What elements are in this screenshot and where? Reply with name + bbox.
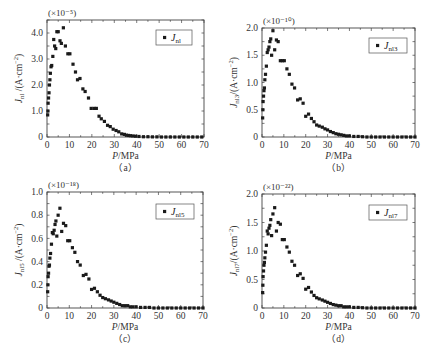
data-point [166, 306, 169, 309]
data-point [58, 207, 61, 210]
y-tick-label: 3.0 [31, 54, 43, 64]
data-point [152, 306, 155, 309]
data-point [261, 108, 264, 111]
chart-panel-c: 01020304050607000.20.40.60.81.0(×10⁻¹⁸)P… [12, 180, 208, 344]
y-tick-label: 1.5 [246, 50, 258, 60]
y-axis-title: Jnl3/(A·cm−2) [227, 57, 241, 108]
data-point [71, 246, 74, 249]
y-tick-label: 1.0 [31, 187, 43, 197]
y-scale-multiplier: (×10⁻⁵) [48, 8, 76, 18]
data-point [104, 297, 107, 300]
chart-panel-b: 01020304050607000.51.01.52.0(×10⁻¹⁰)P/MP… [227, 16, 420, 173]
data-point [112, 301, 115, 304]
data-series-c [46, 207, 205, 310]
data-point [157, 306, 160, 309]
legend: Jnl [156, 30, 192, 45]
data-point [135, 305, 138, 308]
data-point [146, 135, 149, 138]
data-point [357, 135, 360, 138]
data-point [46, 113, 49, 116]
data-point [400, 306, 403, 309]
data-point [310, 117, 313, 120]
data-point [50, 64, 53, 67]
data-point [137, 135, 140, 138]
data-point [261, 275, 264, 278]
data-point [164, 135, 167, 138]
x-tick-label: 70 [410, 140, 420, 150]
data-point [378, 306, 381, 309]
data-point [74, 70, 77, 73]
data-point [109, 125, 112, 128]
data-point [48, 78, 51, 81]
data-point [269, 37, 272, 40]
y-tick-label: 0 [253, 132, 258, 142]
y-scale-multiplier: (×10⁻¹⁸) [48, 180, 79, 190]
data-point [53, 223, 56, 226]
data-point [383, 135, 386, 138]
data-point [60, 230, 63, 233]
y-tick-label: 2.0 [246, 23, 258, 33]
data-point [285, 245, 288, 248]
data-point [142, 135, 145, 138]
data-point [84, 90, 87, 93]
x-tick-label: 10 [279, 311, 289, 321]
data-point [345, 305, 348, 308]
data-point [68, 52, 71, 55]
data-point [139, 306, 142, 309]
data-point [326, 301, 329, 304]
data-point [396, 306, 399, 309]
data-point [261, 284, 264, 287]
data-point [262, 95, 265, 98]
data-point [357, 306, 360, 309]
data-point [169, 135, 172, 138]
data-point [318, 297, 321, 300]
data-point [93, 287, 96, 290]
data-point [265, 244, 268, 247]
data-point [263, 86, 266, 89]
data-point [374, 135, 377, 138]
x-tick-label: 20 [301, 311, 311, 321]
data-point [191, 135, 194, 138]
y-tick-label: 0 [38, 303, 43, 313]
data-point [46, 290, 49, 293]
data-point [151, 135, 154, 138]
data-point [273, 48, 276, 51]
data-point [361, 306, 364, 309]
x-tick-label: 40 [345, 311, 355, 321]
data-point [54, 47, 57, 50]
data-point [64, 44, 67, 47]
data-point [160, 135, 163, 138]
x-tick-label: 40 [345, 140, 355, 150]
data-point [148, 306, 151, 309]
x-tick-label: 70 [410, 311, 420, 321]
data-point [84, 273, 87, 276]
y-axis-title: Jnl7/(A·cm−2) [227, 226, 241, 277]
data-point [47, 96, 50, 99]
data-point [301, 277, 304, 280]
data-point [79, 263, 82, 266]
legend: Jnl7 [369, 205, 407, 220]
x-tick-label: 60 [388, 140, 398, 150]
data-point [277, 40, 280, 43]
data-series-d [261, 206, 417, 310]
data-point [271, 29, 274, 32]
data-point [378, 135, 381, 138]
data-point [95, 107, 98, 110]
data-point [312, 120, 315, 123]
x-tick-label: 10 [65, 140, 75, 150]
data-point [267, 48, 270, 51]
data-point [396, 135, 399, 138]
data-point [409, 306, 412, 309]
data-point [326, 128, 329, 131]
data-point [47, 102, 50, 105]
data-point [112, 128, 115, 131]
data-point [293, 86, 296, 89]
data-point [68, 239, 71, 242]
x-tick-label: 0 [45, 311, 50, 321]
data-point [352, 135, 355, 138]
x-tick-label: 60 [177, 140, 187, 150]
data-point [96, 290, 99, 293]
panel-label: （b） [326, 162, 351, 173]
data-point [261, 116, 264, 119]
legend-marker-icon [163, 36, 166, 39]
